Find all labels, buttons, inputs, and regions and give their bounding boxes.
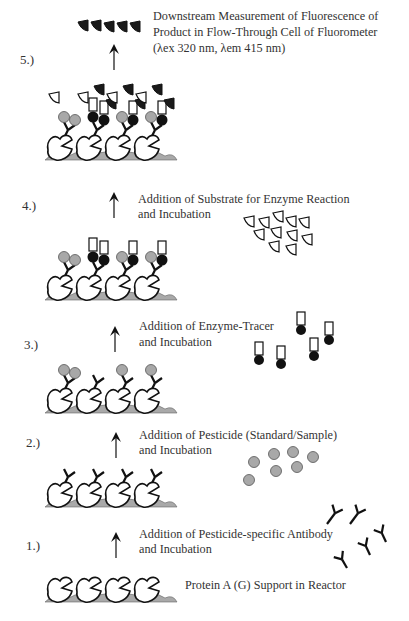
protein-a-binding-site	[48, 482, 72, 507]
protein-a-binding-site	[106, 482, 130, 507]
bound-enzyme	[88, 112, 99, 123]
arrow-icon	[111, 432, 121, 458]
step-label-line: Downstream Measurement of Fluorescence o…	[153, 9, 379, 23]
protein-a-binding-site	[106, 388, 130, 413]
enzyme-tracer-label	[158, 101, 166, 114]
enzyme-tracer-label	[89, 98, 97, 111]
protein-a-binding-site	[48, 577, 72, 602]
protein-a-binding-site	[48, 275, 72, 300]
step-label-line: and Incubation	[139, 443, 212, 457]
bound-enzyme	[88, 252, 99, 263]
free-pesticide-group	[244, 447, 319, 486]
bound-pesticide	[146, 112, 157, 123]
step-number: 5.)	[20, 52, 34, 67]
protein-a-binding-site	[106, 577, 130, 602]
bound-pesticide	[70, 368, 81, 379]
arrow-icon	[109, 192, 119, 218]
bound-pesticide	[70, 115, 81, 126]
step-5: 5.) Downstream Measurement of Fluorescen…	[20, 9, 379, 160]
bound-enzyme	[157, 255, 168, 266]
bound-pesticide	[146, 365, 157, 376]
enzyme-tracer-label	[129, 241, 137, 254]
bound-pesticide	[146, 252, 157, 263]
step-label-line: Addition of Pesticide (Standard/Sample)	[139, 428, 337, 442]
enzyme-tracer-label	[158, 241, 166, 254]
bound-complex	[45, 577, 177, 602]
product-molecule	[152, 84, 162, 95]
step-label-line: Addition of Substrate for Enzyme Reactio…	[138, 192, 350, 206]
substrate-molecule	[78, 92, 88, 103]
protein-a-binding-site	[106, 135, 130, 160]
step-number: 2.)	[26, 435, 40, 450]
protein-a-binding-site	[135, 577, 159, 602]
enzyme-tracer-label	[129, 101, 137, 114]
free-product-group	[78, 20, 140, 32]
bound-enzyme	[128, 115, 139, 126]
bound-antibody	[49, 92, 81, 142]
step-4: 4.) Addition of Substrate for Enzyme Rea…	[22, 192, 350, 300]
arrow-icon	[111, 532, 121, 558]
step-number: 1.)	[26, 538, 40, 553]
protein-a-binding-site	[77, 577, 101, 602]
protein-a-binding-site	[48, 135, 72, 160]
product-molecule	[94, 84, 104, 95]
bound-pesticide	[117, 252, 128, 263]
step-2: 2.) Addition of Pesticide (Standard/Samp…	[26, 428, 337, 507]
bound-complex	[45, 365, 177, 414]
bound-pesticide	[59, 365, 70, 376]
protein-a-binding-site	[106, 275, 130, 300]
enzyme-tracer-label	[100, 241, 108, 254]
protein-a-binding-site	[135, 388, 159, 413]
bound-complex	[45, 238, 177, 300]
protein-a-binding-site	[135, 275, 159, 300]
step-label-line: and Incubation	[139, 335, 212, 349]
bound-enzyme	[157, 115, 168, 126]
step-label-line: Product in Flow-Through Cell of Fluorome…	[153, 25, 377, 39]
bound-enzyme	[99, 115, 110, 126]
step-label-line: and Incubation	[138, 207, 211, 221]
protein-a-binding-site	[77, 135, 101, 160]
step-number: 4.)	[22, 198, 36, 213]
step-label-line: (λex 320 nm, λem 415 nm)	[153, 41, 285, 55]
support-label: Protein A (G) Support in Reactor	[185, 578, 346, 592]
enzyme-tracer-label	[89, 238, 97, 251]
bound-pesticide	[117, 112, 128, 123]
protein-a-binding-site	[77, 388, 101, 413]
step-3: 3.) Addition of Enzyme-Tracer and Incuba…	[24, 312, 334, 413]
step-1: 1.) Addition of Pesticide-specific Antib…	[26, 504, 391, 602]
step-label-line: and Incubation	[139, 542, 212, 556]
protein-a-binding-site	[135, 482, 159, 507]
bound-pesticide	[70, 255, 81, 266]
bound-pesticide	[117, 365, 128, 376]
bound-pesticide	[59, 252, 70, 263]
arrow-icon	[109, 44, 119, 70]
bound-enzyme	[128, 255, 139, 266]
arrow-icon	[110, 326, 120, 352]
bound-antibody	[78, 84, 116, 142]
free-antibody-group	[327, 504, 391, 571]
substrate-molecule	[49, 92, 59, 103]
bound-pesticide	[59, 112, 70, 123]
bound-enzyme	[99, 255, 110, 266]
step-label-line: Addition of Pesticide-specific Antibody	[139, 527, 334, 541]
bound-complex	[45, 469, 177, 507]
protein-a-binding-site	[77, 275, 101, 300]
bound-antibody	[136, 84, 174, 142]
bound-antibody	[88, 238, 110, 282]
step-label-line: Addition of Enzyme-Tracer	[139, 319, 274, 333]
step-number: 3.)	[24, 337, 38, 352]
protein-a-binding-site	[77, 482, 101, 507]
bound-antibody	[107, 84, 145, 142]
protein-a-binding-site	[48, 388, 72, 413]
protein-a-binding-site	[135, 135, 159, 160]
enzyme-tracer-label	[100, 101, 108, 114]
bound-complex	[45, 84, 177, 160]
free-substrate-group	[244, 211, 312, 255]
immunoassay-diagram: 5.) Downstream Measurement of Fluorescen…	[0, 0, 409, 621]
product-molecule	[123, 84, 133, 95]
